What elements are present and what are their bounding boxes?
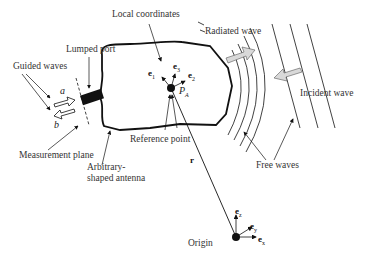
wave-b-arrow [54, 109, 75, 119]
position-vector-label: r [190, 155, 194, 165]
origin-label: Origin [188, 238, 213, 249]
antenna-label-line2: shaped antenna [87, 173, 145, 184]
pa-symbol: PA [179, 85, 189, 98]
measurement-plane-label: Measurement plane [19, 150, 94, 161]
e2-label: e2 [188, 70, 195, 82]
lumped-port-bar [80, 89, 104, 105]
ez-label: ez [235, 206, 242, 218]
ex-label: ex [258, 234, 265, 246]
antenna-label-line1: Arbitrary- [87, 162, 126, 173]
ey-label: ey [250, 221, 257, 233]
incident-wave-label: Incident wave [300, 88, 354, 99]
reference-point-label: Reference point [130, 134, 190, 145]
lumped-port-label: Lumped port [66, 44, 115, 55]
radiated-wave-label: Radiated wave [205, 26, 261, 37]
incident-wave-arrow [274, 68, 302, 81]
wave-a-symbol: a [60, 85, 65, 96]
wave-a-arrow [54, 97, 75, 107]
guided-waves-label: Guided waves [13, 61, 67, 72]
wave-b-symbol: b [54, 119, 59, 130]
local-coordinates-label: Local coordinates [112, 9, 180, 20]
e1-label: e1 [148, 68, 155, 80]
free-waves-label: Free waves [256, 160, 299, 171]
e3-label: e3 [173, 61, 180, 73]
antenna-outline [101, 41, 232, 130]
